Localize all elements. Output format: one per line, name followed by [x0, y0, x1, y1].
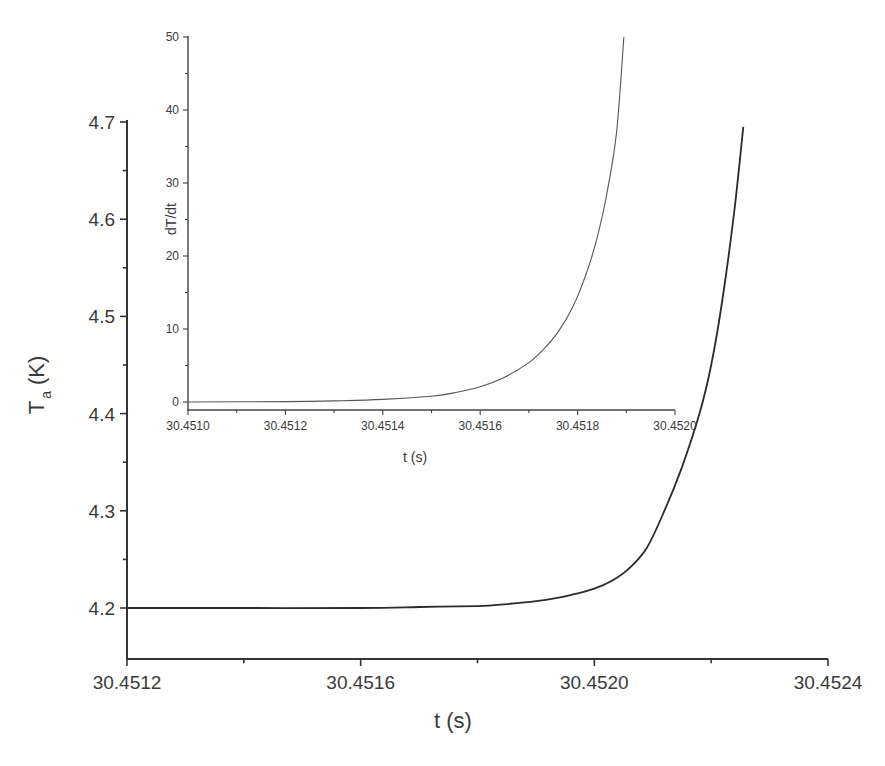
x-tick-label: 30.4516: [459, 419, 503, 433]
x-tick-label: 30.4524: [794, 672, 863, 693]
x-tick-label: 30.4520: [560, 672, 629, 693]
x-tick-label: 30.4516: [326, 672, 395, 693]
inset-y-axis-title: dT/dt: [163, 203, 179, 235]
chart-canvas: 30.451230.451630.452030.45244.24.34.44.5…: [0, 0, 885, 766]
y-tick-label: 4.5: [89, 306, 115, 327]
y-tick-label: 0: [172, 395, 179, 409]
x-tick-label: 30.4518: [556, 419, 600, 433]
main-series-line: [127, 127, 743, 608]
main-y-axis-title-subscript: a: [38, 391, 54, 399]
y-tick-label: 4.7: [89, 112, 115, 133]
y-tick-label: 40: [166, 103, 180, 117]
x-tick-label: 30.4520: [653, 419, 697, 433]
x-tick-label: 30.4512: [93, 672, 162, 693]
y-tick-label: 4.2: [89, 598, 115, 619]
inset-x-axis-title: t (s): [403, 449, 427, 465]
main-x-axis-title: t (s): [434, 708, 472, 733]
y-tick-label: 10: [166, 322, 180, 336]
inset-axes: 30.451030.451230.451430.451630.451830.45…: [166, 30, 697, 433]
main-y-axis-title-symbol: T: [24, 401, 49, 414]
x-tick-label: 30.4512: [264, 419, 308, 433]
main-y-axis-title: Ta(K): [24, 356, 54, 415]
y-tick-label: 50: [166, 30, 180, 44]
x-tick-label: 30.4514: [361, 419, 405, 433]
y-tick-label: 30: [166, 176, 180, 190]
y-tick-label: 4.3: [89, 501, 115, 522]
y-tick-label: 20: [166, 249, 180, 263]
inset-series-line: [188, 37, 624, 402]
y-tick-label: 4.4: [89, 404, 116, 425]
inset-plot: 30.451030.451230.451430.451630.451830.45…: [163, 30, 697, 465]
x-tick-label: 30.4510: [166, 419, 210, 433]
main-y-axis-title-unit: (K): [24, 356, 49, 385]
main-plot: 30.451230.451630.452030.45244.24.34.44.5…: [24, 112, 863, 733]
y-tick-label: 4.6: [89, 209, 115, 230]
